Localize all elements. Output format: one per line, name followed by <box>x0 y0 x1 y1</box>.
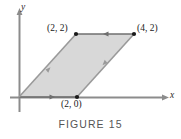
vertex-label-2-2: (2, 2) <box>47 24 68 34</box>
vertex-dot-2-2 <box>74 32 78 36</box>
vertex-label-2-0: (2, 0) <box>61 100 82 110</box>
figure-container: (2, 2) (4, 2) (2, 0) y x FIGURE 15 <box>0 0 181 139</box>
vertex-label-4-2: (4, 2) <box>137 24 158 34</box>
x-axis-arrowhead-icon <box>162 95 169 101</box>
y-axis-label: y <box>21 3 25 13</box>
x-axis-label: x <box>170 91 174 101</box>
vertex-dot-4-2 <box>132 32 136 36</box>
figure-caption: FIGURE 15 <box>0 119 181 130</box>
parallelogram-shape <box>19 34 134 97</box>
